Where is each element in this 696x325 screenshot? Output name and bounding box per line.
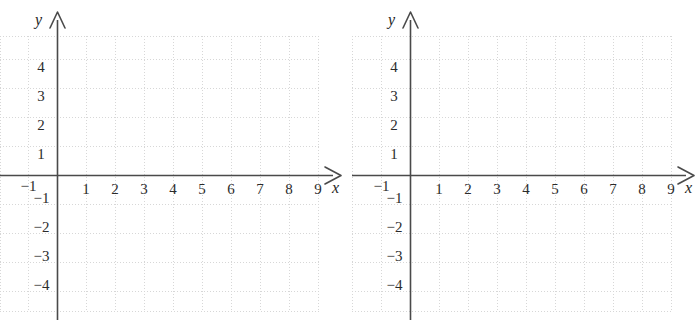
ytick-label: −3 xyxy=(383,249,406,264)
ytick-label: 1 xyxy=(386,147,402,162)
xtick-label: 1 xyxy=(78,182,94,197)
ytick-label: −2 xyxy=(383,220,406,235)
xtick-label: 4 xyxy=(518,182,534,197)
y-axis-label: y xyxy=(388,12,395,28)
y-axis-1 xyxy=(50,12,65,320)
ytick-label: −3 xyxy=(30,249,53,264)
xtick-label: 8 xyxy=(634,182,650,197)
coordinate-grid-panel-2: 4 3 2 1 −1 −2 −3 −4 −1 1 2 3 4 5 6 7 8 9… xyxy=(348,0,696,325)
xtick-label: 3 xyxy=(136,182,152,197)
ytick-label: −4 xyxy=(30,278,53,293)
xtick-label: 6 xyxy=(223,182,239,197)
ytick-label: 3 xyxy=(33,89,49,104)
ytick-label: 2 xyxy=(33,118,49,133)
y-axis-label: y xyxy=(35,12,42,28)
ytick-label: 4 xyxy=(33,60,49,75)
y-axis-2 xyxy=(403,12,418,320)
ytick-label: 1 xyxy=(33,147,49,162)
xtick-label: −1 xyxy=(370,179,393,194)
xtick-label: 2 xyxy=(107,182,123,197)
xtick-label: −1 xyxy=(17,179,40,194)
xtick-label: 7 xyxy=(605,182,621,197)
xtick-label: 3 xyxy=(489,182,505,197)
ytick-label: 2 xyxy=(386,118,402,133)
xtick-label: 6 xyxy=(576,182,592,197)
xtick-label: 5 xyxy=(547,182,563,197)
coordinate-grid-panel-1: 4 3 2 1 −1 −2 −3 −4 −1 1 2 3 4 5 6 7 8 9… xyxy=(0,0,348,325)
vertical-gridlines-1 xyxy=(1,36,319,312)
xtick-label: 5 xyxy=(194,182,210,197)
vertical-gridlines-2 xyxy=(353,36,672,312)
grid-canvas-1 xyxy=(0,0,348,325)
xtick-label: 1 xyxy=(431,182,447,197)
x-axis-label: x xyxy=(332,180,339,196)
ytick-label: −4 xyxy=(383,278,406,293)
xtick-label: 9 xyxy=(310,182,326,197)
ytick-label: 3 xyxy=(386,89,402,104)
horizontal-gridlines-1 xyxy=(0,37,319,312)
xtick-label: 8 xyxy=(281,182,297,197)
ytick-label: −2 xyxy=(30,220,53,235)
xtick-label: 9 xyxy=(663,182,679,197)
horizontal-gridlines-2 xyxy=(352,37,672,312)
ytick-label: 4 xyxy=(386,60,402,75)
xtick-label: 7 xyxy=(252,182,268,197)
xtick-label: 2 xyxy=(460,182,476,197)
xtick-label: 4 xyxy=(165,182,181,197)
x-axis-label: x xyxy=(685,180,692,196)
